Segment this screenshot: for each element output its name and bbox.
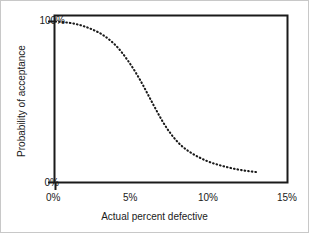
x-tick-label-15: 15% — [277, 193, 297, 203]
x-tick-label-10: 10% — [198, 193, 218, 203]
x-tick-label-0: 0% — [46, 193, 60, 203]
chart-figure: 100% 0% 0% 5% 10% 15% Actual percent def… — [0, 0, 309, 233]
y-axis-title-text: Probability of acceptance — [17, 31, 27, 171]
plot-frame — [55, 16, 288, 183]
x-tick-label-5: 5% — [123, 193, 137, 203]
y-tick-label-0: 0% — [45, 178, 59, 188]
x-axis-title: Actual percent defective — [1, 212, 308, 222]
y-tick-label-100: 100% — [39, 16, 65, 26]
oc-curve-line — [56, 22, 258, 173]
y-axis-title: Probability of acceptance — [17, 0, 29, 31]
